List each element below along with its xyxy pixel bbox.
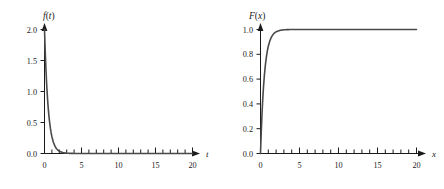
cdf-y-ticklabel-2: 0.4 <box>243 100 253 109</box>
pdf-panel: f(t) 0.0 0.5 1.0 1.5 2.0 <box>0 0 222 189</box>
cdf-y-ticks <box>257 30 261 154</box>
pdf-plot-svg: f(t) 0.0 0.5 1.0 1.5 2.0 <box>0 0 222 189</box>
two-panel-figure: f(t) 0.0 0.5 1.0 1.5 2.0 <box>0 0 444 189</box>
cdf-x-ticklabel-4: 20 <box>412 161 420 170</box>
pdf-x-ticklabel-1: 5 <box>79 161 83 170</box>
cdf-y-ticklabel-3: 0.6 <box>243 75 253 84</box>
pdf-y-ticklabel-1: 0.5 <box>27 119 37 128</box>
pdf-axes <box>42 23 200 156</box>
pdf-y-ticklabel-3: 1.5 <box>27 57 37 66</box>
cdf-y-axis-title: F(x) <box>248 11 265 22</box>
pdf-y-ticks <box>41 30 45 154</box>
cdf-y-ticklabel-1: 0.2 <box>243 125 253 134</box>
cdf-data-curve <box>261 30 417 154</box>
pdf-x-ticklabel-4: 20 <box>188 161 196 170</box>
pdf-y-ticklabel-0: 0.0 <box>27 150 37 159</box>
pdf-data-curve <box>45 30 193 154</box>
cdf-y-ticklabel-4: 0.8 <box>243 50 253 59</box>
pdf-y-ticklabel-4: 2.0 <box>27 26 37 35</box>
cdf-x-ticklabel-0: 0 <box>258 161 262 170</box>
cdf-y-ticklabel-5: 1.0 <box>243 26 253 35</box>
cdf-x-axis-title: x <box>431 149 436 159</box>
pdf-x-ticklabel-2: 10 <box>114 161 122 170</box>
pdf-x-ticklabel-0: 0 <box>42 161 46 170</box>
cdf-plot-svg: F(x) 0.0 0.2 0.4 0.6 0.8 1.0 <box>222 0 444 189</box>
cdf-x-ticklabel-2: 10 <box>334 161 342 170</box>
pdf-y-axis-title: f(t) <box>43 11 55 22</box>
pdf-y-ticklabel-2: 1.0 <box>27 88 37 97</box>
cdf-panel: F(x) 0.0 0.2 0.4 0.6 0.8 1.0 <box>222 0 444 189</box>
cdf-x-ticklabel-1: 5 <box>297 161 301 170</box>
cdf-x-ticklabel-3: 15 <box>373 161 381 170</box>
cdf-axes <box>258 23 426 156</box>
pdf-x-ticklabel-3: 15 <box>151 161 159 170</box>
cdf-y-ticklabel-0: 0.0 <box>243 150 253 159</box>
pdf-x-axis-title: t <box>206 149 209 159</box>
